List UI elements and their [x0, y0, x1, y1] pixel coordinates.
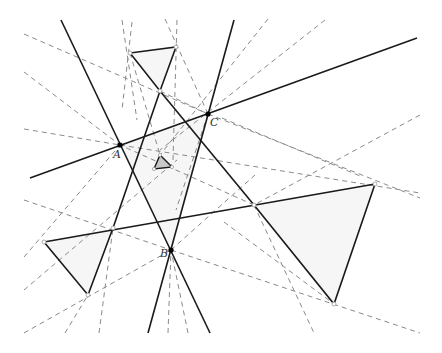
geometry-diagram: A B C: [0, 0, 442, 353]
label-b: B: [159, 247, 168, 260]
left-triangle-fill: [44, 228, 113, 295]
label-c: C: [210, 116, 219, 129]
point-a: [117, 142, 122, 147]
top-triangle-fill: [130, 47, 176, 91]
point-b: [168, 247, 173, 252]
label-a: A: [112, 148, 121, 161]
